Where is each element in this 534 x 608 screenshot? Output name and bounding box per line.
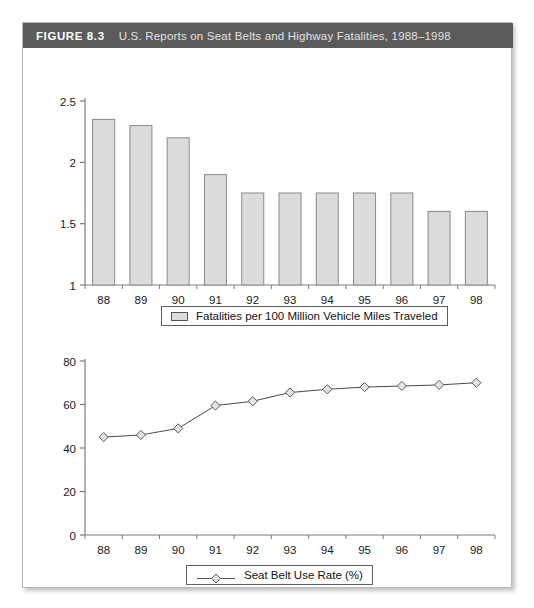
x-tick-label: 96	[395, 294, 408, 306]
data-point-marker	[99, 433, 108, 442]
bar	[465, 211, 487, 285]
line-chart-panel: 0204060808889909192939495969798	[23, 333, 513, 588]
bar	[93, 119, 115, 285]
line-legend-label: Seat Belt Use Rate (%)	[244, 569, 363, 581]
bar	[167, 138, 189, 285]
x-tick-label: 90	[172, 544, 185, 556]
x-tick-label: 95	[358, 294, 371, 306]
bar-chart-plot: 11.522.58889909192939495969798	[23, 48, 513, 333]
y-tick-label: 60	[63, 399, 76, 411]
x-tick-label: 93	[284, 544, 297, 556]
data-point-marker	[360, 383, 369, 392]
x-tick-label: 96	[395, 544, 408, 556]
y-tick-label: 20	[63, 486, 76, 498]
data-point-marker	[211, 401, 220, 410]
x-tick-label: 98	[470, 544, 483, 556]
x-tick-label: 97	[433, 294, 446, 306]
bar	[354, 193, 376, 285]
data-point-marker	[323, 385, 332, 394]
line-chart-legend: Seat Belt Use Rate (%)	[186, 565, 373, 585]
figure-card: FIGURE 8.3 U.S. Reports on Seat Belts an…	[22, 22, 512, 588]
y-tick-label: 40	[63, 443, 76, 455]
bar	[204, 175, 226, 285]
x-tick-label: 89	[135, 544, 148, 556]
y-tick-label: 2	[70, 157, 76, 169]
x-tick-label: 88	[97, 544, 110, 556]
bar-chart-legend: Fatalities per 100 Million Vehicle Miles…	[161, 306, 448, 326]
x-tick-label: 90	[172, 294, 185, 306]
figure-title: U.S. Reports on Seat Belts and Highway F…	[119, 30, 451, 42]
x-tick-label: 91	[209, 294, 222, 306]
legend-line-marker-icon	[196, 570, 236, 581]
x-tick-label: 92	[246, 294, 259, 306]
bar-chart-panel: 11.522.58889909192939495969798	[23, 48, 513, 333]
bar	[316, 193, 338, 285]
x-tick-label: 92	[246, 544, 259, 556]
x-tick-label: 95	[358, 544, 371, 556]
x-tick-label: 97	[433, 544, 446, 556]
bar	[130, 126, 152, 285]
y-tick-label: 2.5	[60, 96, 76, 108]
data-point-marker	[434, 380, 443, 389]
legend-swatch-icon	[171, 312, 188, 321]
x-tick-label: 94	[321, 544, 334, 556]
figure-header: FIGURE 8.3 U.S. Reports on Seat Belts an…	[23, 23, 513, 48]
y-tick-label: 80	[63, 356, 76, 368]
figure-number-label: FIGURE 8.3	[36, 30, 105, 42]
data-point-marker	[472, 378, 481, 387]
x-tick-label: 88	[97, 294, 110, 306]
x-tick-label: 91	[209, 544, 222, 556]
x-tick-label: 94	[321, 294, 334, 306]
data-point-marker	[397, 381, 406, 390]
bar-legend-label: Fatalities per 100 Million Vehicle Miles…	[196, 310, 438, 322]
bar	[391, 193, 413, 285]
bar	[428, 211, 450, 285]
y-tick-label: 0	[70, 530, 76, 542]
data-point-marker	[174, 424, 183, 433]
bar	[279, 193, 301, 285]
bar	[242, 193, 264, 285]
x-tick-label: 98	[470, 294, 483, 306]
x-tick-label: 93	[284, 294, 297, 306]
data-point-marker	[248, 397, 257, 406]
data-point-marker	[285, 388, 294, 397]
data-point-marker	[136, 430, 145, 439]
y-tick-label: 1.5	[60, 218, 76, 230]
diamond-marker-icon	[196, 573, 236, 584]
x-tick-label: 89	[135, 294, 148, 306]
line-chart-plot: 0204060808889909192939495969798	[23, 333, 513, 588]
y-tick-label: 1	[70, 280, 76, 292]
